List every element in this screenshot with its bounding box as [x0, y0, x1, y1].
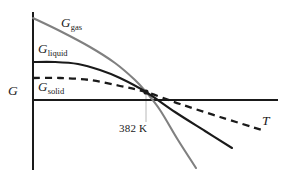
y-axis-label: G: [8, 82, 18, 98]
curve-label-g-liquid: Gliquid: [38, 40, 67, 56]
crossing-point-marker: [143, 89, 148, 94]
curve-g-liquid: [33, 62, 232, 148]
curve-label-g-gas: Ggas: [61, 14, 82, 30]
curve-g-solid: [33, 78, 262, 130]
gibbs-energy-phase-diagram: G T Ggas Gliquid Gsolid 382 K: [0, 0, 283, 183]
x-axis-label: T: [262, 112, 270, 128]
curve-label-g-solid: Gsolid: [38, 78, 64, 94]
transition-temperature-label: 382 K: [119, 123, 147, 134]
